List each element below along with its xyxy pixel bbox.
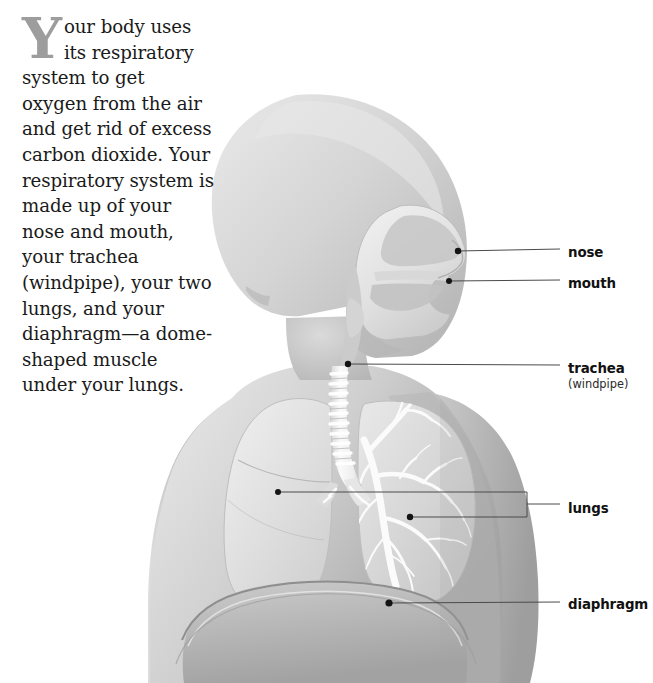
leader-line-mouth <box>449 280 560 281</box>
dot-lung-left <box>275 489 281 495</box>
dot-trachea <box>345 361 351 367</box>
label-diaphragm: diaphragm <box>568 597 648 612</box>
dot-diaphragm <box>385 599 392 606</box>
leader-line-diaphragm <box>389 602 560 603</box>
dot-lung-right <box>407 514 413 520</box>
label-trachea: trachea <box>568 361 625 376</box>
label-mouth: mouth <box>568 276 616 291</box>
label-nose: nose <box>568 245 603 260</box>
dot-mouth <box>446 278 452 284</box>
leader-line-trachea <box>348 364 560 365</box>
leader-lines-layer <box>0 0 653 683</box>
label-trachea-subtext: (windpipe) <box>568 377 628 391</box>
leader-line-nose <box>458 249 560 251</box>
respiratory-system-figure: Y our body uses its respiratory system t… <box>0 0 653 683</box>
leader-dots <box>275 248 461 607</box>
label-lungs: lungs <box>568 501 608 516</box>
dot-nose <box>455 248 461 254</box>
leader-bracket-lungs <box>278 492 560 517</box>
